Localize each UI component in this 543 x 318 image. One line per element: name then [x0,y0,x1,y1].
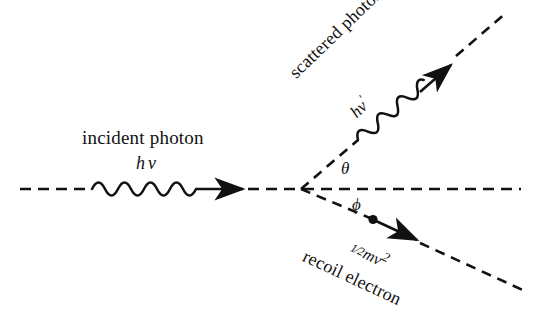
incident-energy-h: h [136,153,145,173]
phi-angle-label: ϕ [352,196,361,213]
recoil-electron-dashed-outer [420,243,527,292]
scattered-photon-dashed-outer [456,12,507,56]
incident-photon-wave [92,183,196,196]
diagram-canvas [0,0,543,318]
incident-energy-nu: ν [145,153,156,173]
scattered-photon-arrow [420,65,451,92]
recoil-electron-arrow [376,221,417,240]
compton-scattering-figure: incident photon hν scattered photon hν′ … [0,0,543,318]
electron-dot [368,215,377,224]
incident-photon-label: incident photon [82,128,204,147]
incident-photon-energy-label: hν [136,154,156,172]
theta-angle-label: θ [341,160,349,177]
scattered-photon-dashed-inner [301,140,358,189]
